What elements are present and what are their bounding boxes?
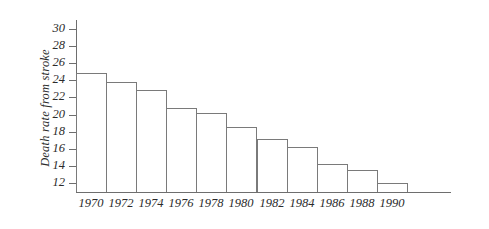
y-axis-tick-label: 28 xyxy=(25,39,65,52)
y-axis-tick xyxy=(69,63,77,64)
y-axis-tick xyxy=(69,46,77,47)
bar xyxy=(226,127,257,192)
bar xyxy=(347,170,378,192)
bar xyxy=(196,113,227,192)
y-axis-tick-label: 12 xyxy=(25,176,65,189)
x-axis-tick-label: 1990 xyxy=(372,197,412,210)
y-axis-tick-label: 14 xyxy=(25,159,65,172)
chart-figure: Death rate from stroke 30282624222018161… xyxy=(0,0,489,229)
bar xyxy=(317,164,348,192)
bar xyxy=(166,108,197,192)
bar xyxy=(257,139,288,192)
y-axis-tick-label: 24 xyxy=(25,73,65,86)
y-axis-tick xyxy=(69,29,77,30)
y-axis-tick-label: 22 xyxy=(25,90,65,103)
bar xyxy=(76,73,107,192)
bar xyxy=(377,183,408,192)
plot-area: 3028262422201816141219701972197419761978… xyxy=(0,0,489,229)
y-axis-tick-label: 26 xyxy=(25,56,65,69)
y-axis-tick-label: 16 xyxy=(25,142,65,155)
x-axis-line xyxy=(76,192,451,193)
bar xyxy=(287,147,318,192)
y-axis-tick-label: 20 xyxy=(25,108,65,121)
bar xyxy=(136,90,167,192)
y-axis-tick-label: 30 xyxy=(25,22,65,35)
y-axis-tick-label: 18 xyxy=(25,125,65,138)
bar xyxy=(106,82,137,192)
